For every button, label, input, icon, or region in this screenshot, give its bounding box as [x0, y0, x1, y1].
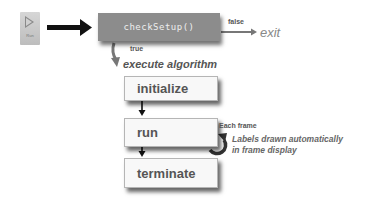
- check-setup-node: checkSetup(): [98, 13, 220, 41]
- terminate-label: terminate: [125, 166, 196, 181]
- arrow-run-to-check: [47, 19, 92, 36]
- execute-algorithm-label: execute algorithm: [123, 58, 217, 70]
- false-label: false: [228, 18, 244, 25]
- arrow-run-to-terminate: [139, 147, 146, 157]
- true-label: true: [130, 45, 143, 52]
- initialize-node: initialize: [124, 76, 218, 101]
- loop-note-line1: Labels drawn automatically: [232, 134, 343, 145]
- initialize-label: initialize: [125, 81, 188, 96]
- terminate-node: terminate: [124, 158, 218, 188]
- loop-note-line2: in frame display: [232, 145, 297, 156]
- run-node: run: [124, 118, 218, 147]
- arrow-true-to-execute: [111, 43, 120, 67]
- check-setup-label: checkSetup(): [123, 22, 194, 32]
- each-frame-label: Each frame: [219, 122, 257, 129]
- arrow-false-to-exit: [221, 29, 257, 36]
- run-label: run: [125, 125, 158, 140]
- arrow-initialize-to-run: [139, 100, 146, 116]
- exit-label: exit: [260, 25, 280, 40]
